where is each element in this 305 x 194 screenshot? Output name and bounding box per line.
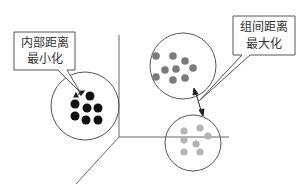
z-axis: [76, 137, 119, 184]
cluster-dots: [180, 124, 211, 155]
callout-intra-line2: 最小化: [27, 52, 63, 66]
cluster-dots: [152, 52, 197, 84]
cluster-left: [51, 72, 119, 140]
callout-intra-line1: 内部距离: [21, 35, 69, 50]
cluster-bottom-right: [165, 115, 221, 171]
callout-intra-distance: 内部距离 最小化: [14, 32, 80, 92]
cluster-top-right: [150, 33, 216, 99]
callout-inter-line2: 最大化: [246, 37, 282, 51]
cluster-boundary: [150, 33, 216, 99]
intra-distance-arrow-icon: [74, 91, 84, 97]
callout-inter-line1: 组间距离: [240, 19, 288, 34]
callout-inter-distance: 组间距离 最大化: [198, 16, 295, 102]
clustering-diagram: 内部距离 最小化 组间距离 最大化: [0, 0, 305, 194]
